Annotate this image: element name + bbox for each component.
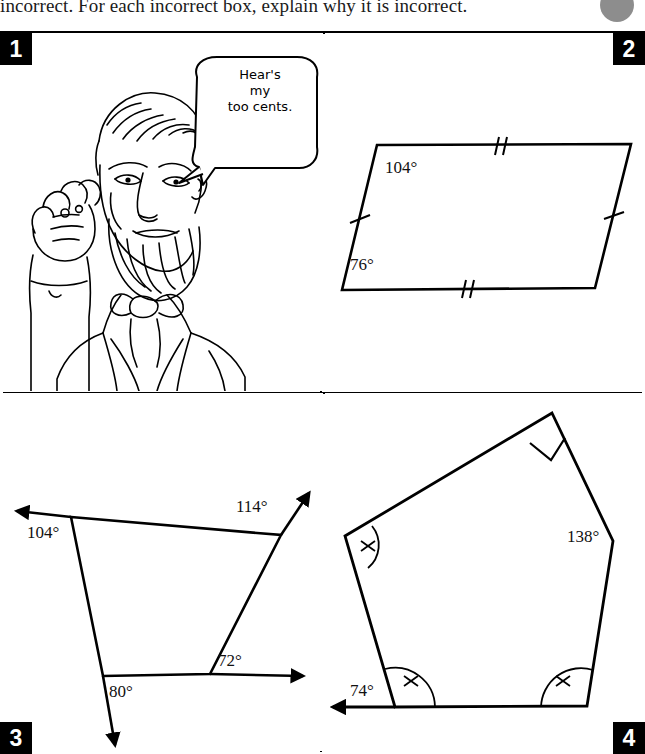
parallelogram-figure: [325, 33, 642, 391]
worksheet-grid: Hear's my too cents. 10: [3, 33, 642, 751]
box-1[interactable]: Hear's my too cents.: [3, 33, 323, 391]
box-4[interactable]: 138° 74°: [325, 393, 642, 751]
angle-label-76: 76°: [350, 255, 374, 275]
speech-line-2: my: [205, 83, 315, 99]
box-number-1: 1: [0, 33, 32, 65]
angle-label-114: 114°: [236, 497, 268, 517]
angle-label-104: 104°: [385, 158, 417, 178]
box-number-4: 4: [613, 722, 645, 754]
angle-label-72: 72°: [218, 651, 242, 671]
angle-label-104: 104°: [27, 523, 59, 543]
gray-circle-icon: [600, 0, 634, 22]
box-number-3: 3: [0, 722, 32, 754]
worksheet-header: incorrect. For each incorrect box, expla…: [0, 0, 645, 30]
angle-label-138: 138°: [567, 527, 599, 547]
quadrilateral-exterior-angle-figure: [3, 393, 323, 751]
speech-bubble-text: Hear's my too cents.: [205, 67, 315, 115]
instruction-text: incorrect. For each incorrect box, expla…: [0, 0, 467, 17]
box-2[interactable]: 104° 76°: [325, 33, 642, 391]
angle-label-74: 74°: [350, 681, 374, 701]
speech-line-3: too cents.: [205, 99, 315, 115]
box-3[interactable]: 104° 114° 72° 80°: [3, 393, 323, 751]
angle-label-80: 80°: [109, 682, 133, 702]
speech-line-1: Hear's: [205, 67, 315, 83]
box-number-2: 2: [613, 33, 645, 65]
